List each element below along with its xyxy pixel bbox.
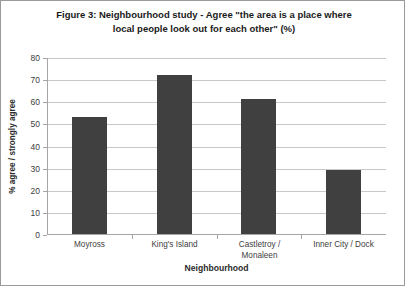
plot-frame: 01020304050607080 <box>47 58 386 235</box>
y-axis-tick <box>43 58 47 59</box>
figure-container: Figure 3: Neighbourhood study - Agree "t… <box>0 0 405 286</box>
x-axis-category-label-line: Moyross <box>47 240 132 251</box>
x-axis-title: Neighbourhood <box>47 263 386 273</box>
gridline <box>47 58 386 59</box>
y-axis-tick-label: 30 <box>31 164 40 174</box>
bar <box>157 75 192 234</box>
gridline <box>47 80 386 81</box>
x-axis-category-label: Castletroy /Monaleen <box>217 240 302 261</box>
y-axis-tick-label: 10 <box>31 208 40 218</box>
x-axis-category-label-line: Monaleen <box>217 251 302 262</box>
y-axis-line <box>47 58 48 235</box>
chart-title-line-2: local people look out for each other" (%… <box>29 22 379 36</box>
y-axis-tick-label: 0 <box>35 230 40 240</box>
y-axis-tick-label: 20 <box>31 186 40 196</box>
y-axis-tick-label: 60 <box>31 97 40 107</box>
plot-area: 01020304050607080 <box>47 58 386 235</box>
y-axis-tick-label: 50 <box>31 119 40 129</box>
y-axis-title: % agree / strongly agree <box>6 58 18 235</box>
y-axis-tick <box>43 191 47 192</box>
y-axis-tick-label: 40 <box>31 142 40 152</box>
y-axis-title-label: % agree / strongly agree <box>8 99 17 194</box>
y-axis-tick <box>43 213 47 214</box>
bar <box>72 117 107 234</box>
x-axis-category-label: Moyross <box>47 240 132 251</box>
y-axis-tick <box>43 80 47 81</box>
x-axis-category-label-line: Inner City / Dock <box>301 240 386 251</box>
y-axis-tick <box>43 102 47 103</box>
chart-title: Figure 3: Neighbourhood study - Agree "t… <box>29 8 379 35</box>
y-axis-tick-label: 70 <box>31 75 40 85</box>
y-axis-tick <box>43 169 47 170</box>
y-axis-tick-label: 80 <box>31 53 40 63</box>
y-axis-tick <box>43 147 47 148</box>
y-axis-tick <box>43 124 47 125</box>
x-axis-tick <box>217 235 218 239</box>
y-axis-tick <box>43 235 47 236</box>
x-axis-tick <box>132 235 133 239</box>
x-axis-category-label-line: King's Island <box>132 240 217 251</box>
x-axis-tick <box>301 235 302 239</box>
bar <box>326 170 361 234</box>
gridline <box>47 102 386 103</box>
x-axis-category-label: King's Island <box>132 240 217 251</box>
x-axis-category-label-line: Castletroy / <box>217 240 302 251</box>
bar <box>241 99 276 234</box>
chart-title-line-1: Figure 3: Neighbourhood study - Agree "t… <box>29 8 379 22</box>
x-axis-category-label: Inner City / Dock <box>301 240 386 251</box>
